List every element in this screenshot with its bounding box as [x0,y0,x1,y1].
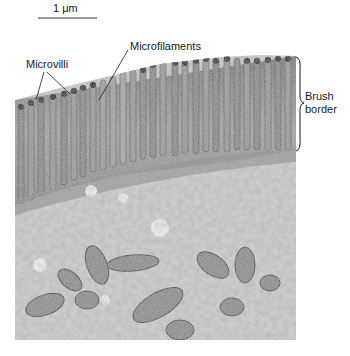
scale-bar-label: 1 μm [53,2,78,14]
microvilli-label: Microvilli [26,58,68,71]
brush-border-label-line1: Brush [305,90,334,103]
brush-border-brace-icon [296,57,304,151]
micrograph-figure [0,0,350,356]
brush-border-label-line2: border [305,103,337,116]
microfilaments-label: Microfilaments [130,40,201,53]
micrograph-image [15,50,296,340]
